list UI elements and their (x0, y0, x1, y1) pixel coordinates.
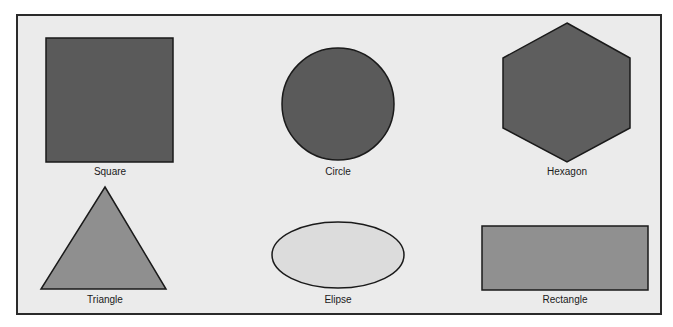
shapes-canvas (0, 0, 673, 327)
rectangle-shape (482, 226, 648, 290)
square-shape (46, 38, 173, 162)
hexagon-shape (503, 23, 630, 162)
rectangle-label: Rectangle (505, 294, 625, 306)
triangle-label: Triangle (45, 294, 165, 306)
ellipse-label: Elipse (278, 294, 398, 306)
circle-label: Circle (278, 166, 398, 178)
triangle-shape (41, 187, 166, 289)
square-label: Square (50, 166, 170, 178)
circle-shape (282, 48, 394, 160)
ellipse-shape (272, 222, 404, 288)
hexagon-label: Hexagon (507, 166, 627, 178)
